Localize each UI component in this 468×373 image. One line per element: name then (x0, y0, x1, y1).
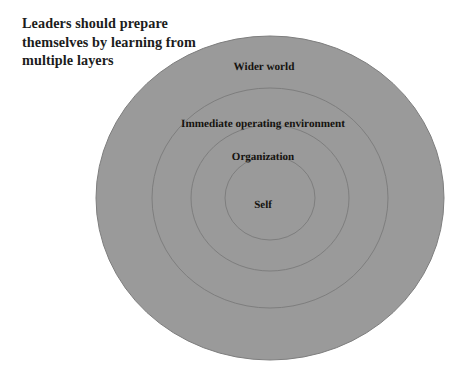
ring-label-immediate-operating-environment: Immediate operating environment (181, 118, 345, 130)
ring-label-wider-world: Wider world (234, 61, 295, 73)
concentric-circles-diagram (0, 0, 468, 373)
ring-label-self: Self (254, 199, 272, 211)
ring-self (225, 156, 315, 240)
ring-label-organization: Organization (232, 151, 294, 163)
figure-container: Leaders should prepare themselves by lea… (0, 0, 468, 373)
